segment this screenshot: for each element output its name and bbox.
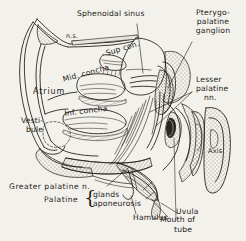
- label-palatine-aponeurosis: aponeurosis: [93, 200, 141, 208]
- label-sphenoidal-sinus: Sphenoidal sinus: [77, 10, 145, 18]
- label-lesser-palatine-line3: nn.: [204, 94, 217, 102]
- label-vestibule-line2: bule: [26, 126, 43, 134]
- label-cribriform-mark: n.s.: [66, 33, 78, 40]
- label-pterygopalatine-ganglion-line3: ganglion: [183, 27, 243, 35]
- label-mouth-of-tube-line2: tube: [174, 226, 192, 234]
- label-atrium: Atrium: [33, 88, 65, 96]
- label-hamulus: Hamulus: [133, 214, 168, 222]
- anatomy-figure: Sphenoidal sinus Pterygo- palatine gangl…: [0, 0, 246, 241]
- label-palatine: Palatine: [44, 196, 78, 204]
- label-axis: Axis: [208, 147, 222, 155]
- label-greater-palatine-nerve: Greater palatine n.: [9, 183, 90, 191]
